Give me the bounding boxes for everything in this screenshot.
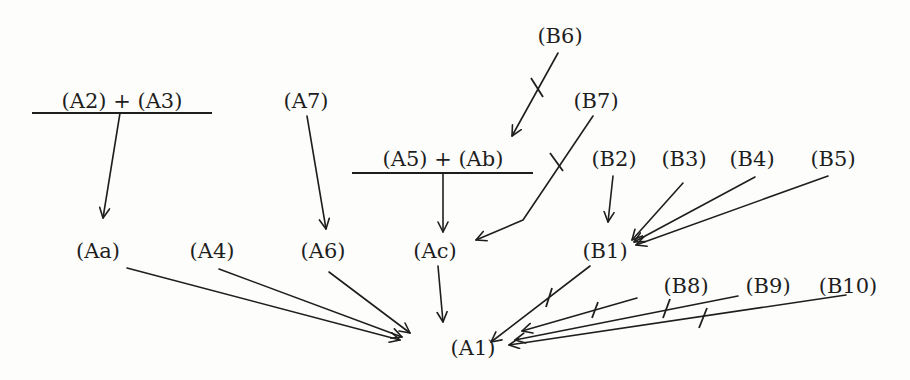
node-a2-a3: (A2) + (A3) bbox=[62, 89, 183, 113]
node-a6: (A6) bbox=[301, 239, 346, 263]
edge-b8-to-a1 bbox=[522, 298, 637, 331]
node-b2: (B2) bbox=[591, 147, 636, 171]
edge-aa-to-a1 bbox=[127, 268, 400, 340]
bar-mark-b10 bbox=[699, 308, 707, 328]
edge-b1-to-a1 bbox=[491, 266, 590, 342]
node-b1: (B1) bbox=[582, 239, 627, 263]
node-a1: (A1) bbox=[451, 336, 496, 360]
edge-a7-to-a6 bbox=[307, 116, 326, 229]
node-b4: (B4) bbox=[729, 147, 774, 171]
node-b10: (B10) bbox=[819, 274, 878, 298]
edge-b5-to-b1 bbox=[636, 176, 828, 245]
node-b7: (B7) bbox=[573, 89, 618, 113]
node-a7: (A7) bbox=[284, 89, 329, 113]
node-a4: (A4) bbox=[190, 239, 235, 263]
diagram-canvas: (A2) + (A3) (A7) (B6) (B7) (A5) + (Ab) (… bbox=[0, 0, 910, 380]
bar-mark-b6 bbox=[531, 78, 543, 97]
edge-a2a3-to-aa bbox=[103, 113, 120, 218]
edge-b6-to-a5ab bbox=[512, 53, 558, 136]
node-ac: (Ac) bbox=[413, 239, 456, 263]
bar-mark-b7 bbox=[550, 153, 563, 171]
edge-b2-to-b1 bbox=[608, 176, 613, 222]
node-a5-ab: (A5) + (Ab) bbox=[383, 147, 504, 171]
edge-ac-to-a1 bbox=[438, 266, 443, 322]
node-b3: (B3) bbox=[661, 147, 706, 171]
edge-a4-to-a1 bbox=[219, 269, 402, 337]
diagram-svg: (A2) + (A3) (A7) (B6) (B7) (A5) + (Ab) (… bbox=[0, 0, 910, 380]
edge-b7-to-ac bbox=[476, 116, 593, 240]
node-aa: (Aa) bbox=[76, 239, 120, 263]
node-b8: (B8) bbox=[663, 274, 708, 298]
node-b9: (B9) bbox=[745, 274, 790, 298]
node-b5: (B5) bbox=[810, 147, 855, 171]
bar-mark-b9 bbox=[663, 299, 670, 318]
node-b6: (B6) bbox=[537, 24, 582, 48]
edge-b9-to-a1 bbox=[515, 296, 738, 340]
bar-mark-b1 bbox=[546, 288, 552, 307]
